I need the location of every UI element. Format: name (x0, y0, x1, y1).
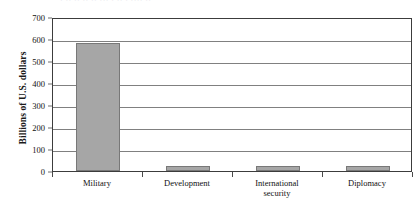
y-axis-tick-mark (48, 84, 52, 85)
plot-area (52, 18, 412, 172)
y-axis-tick-mark (48, 62, 52, 63)
bar-diplomacy (346, 166, 390, 171)
x-axis-tick-label-line: Military (52, 178, 142, 188)
y-axis-tick-label: 300 (11, 101, 45, 111)
x-axis-tick-label-line: security (232, 188, 322, 198)
x-axis-tick-mark (322, 172, 323, 177)
x-axis-tick-mark (232, 172, 233, 177)
x-axis-tick-mark (142, 172, 143, 177)
y-axis-tick-label: 0 (11, 167, 45, 177)
gridline (53, 41, 411, 42)
bar-international-security (256, 166, 300, 171)
x-axis-tick-label-line: International (232, 178, 322, 188)
bar-development (166, 166, 210, 171)
clipped-title-remnant: · ·· ·· ·· ·· ··· · ·· · ···· ·· (60, 0, 360, 4)
y-axis-tick-label: 400 (11, 79, 45, 89)
y-axis-tick-mark (48, 106, 52, 107)
y-axis-tick-label: 500 (11, 57, 45, 67)
x-axis-tick-label-line: Development (142, 178, 232, 188)
bar-chart-figure: · ·· ·· ·· ·· ··· · ·· · ···· ·· Billion… (0, 0, 418, 209)
x-axis-tick-mark (412, 172, 413, 177)
bar-military (76, 43, 120, 171)
x-axis-tick-label: Development (142, 178, 232, 188)
y-axis-tick-label: 100 (11, 145, 45, 155)
x-axis-tick-label-line: Diplomacy (322, 178, 412, 188)
y-axis-tick-mark (48, 128, 52, 129)
y-axis-tick-label: 700 (11, 13, 45, 23)
y-axis-tick-mark (48, 150, 52, 151)
y-axis-tick-label: 600 (11, 35, 45, 45)
x-axis-tick-label: Internationalsecurity (232, 178, 322, 198)
y-axis-tick-label: 200 (11, 123, 45, 133)
y-axis-tick-mark (48, 40, 52, 41)
y-axis-tick-mark (48, 18, 52, 19)
x-axis-tick-label: Diplomacy (322, 178, 412, 188)
x-axis-tick-label: Military (52, 178, 142, 188)
x-axis-tick-mark (52, 172, 53, 177)
